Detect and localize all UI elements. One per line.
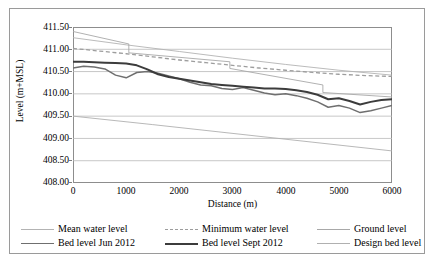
legend-line-icon	[20, 223, 56, 235]
y-tick-mark	[69, 93, 72, 94]
legend-label: Minimum water level	[200, 223, 289, 235]
y-tick-mark	[69, 116, 72, 117]
series-line-mean-water-level	[73, 38, 392, 75]
chart-legend: Mean water level Minimum water level Gro…	[20, 222, 420, 252]
legend-line-icon	[316, 237, 352, 249]
legend-label: Bed level Sept 2012	[200, 237, 283, 249]
legend-line-icon	[20, 237, 56, 249]
plot-canvas	[73, 27, 392, 183]
x-tick-label: 6000	[367, 186, 417, 197]
y-tick-mark	[69, 160, 72, 161]
legend-label: Bed level Jun 2012	[56, 237, 135, 249]
x-tick-label: 1000	[101, 186, 151, 197]
y-tick-label: 410.00	[27, 88, 69, 98]
legend-line-icon	[164, 237, 200, 249]
legend-row: Bed level Jun 2012 Bed level Sept 2012 D…	[20, 236, 420, 250]
legend-item-bed-level-jun-2012: Bed level Jun 2012	[20, 236, 164, 250]
legend-label: Mean water level	[56, 223, 127, 235]
y-axis-ticks: 411.50 411.00 410.50 410.00 409.50 409.0…	[24, 0, 69, 200]
legend-label: Ground level	[352, 223, 407, 235]
series-line-bed-level-jun-2012	[73, 66, 392, 112]
x-axis-title: Distance (m)	[73, 199, 392, 209]
y-tick-label: 408.50	[27, 155, 69, 165]
y-tick-label: 411.50	[27, 22, 69, 32]
series-line-design-bed-level	[73, 116, 392, 151]
legend-line-icon	[316, 223, 352, 235]
x-tick-label: 5000	[314, 186, 364, 197]
y-tick-mark	[69, 71, 72, 72]
y-tick-mark	[69, 27, 72, 28]
x-tick-label: 3000	[207, 186, 257, 197]
y-tick-label: 410.50	[27, 66, 69, 76]
legend-label: Design bed level	[352, 237, 421, 249]
legend-row: Mean water level Minimum water level Gro…	[20, 222, 420, 236]
series-line-bed-level-sept-2012	[73, 62, 392, 105]
gridlines	[73, 49, 392, 160]
legend-item-minimum-water-level: Minimum water level	[164, 222, 316, 236]
x-tick-label: 2000	[154, 186, 204, 197]
x-tick-label: 0	[48, 186, 98, 197]
legend-item-ground-level: Ground level	[316, 222, 420, 236]
y-tick-mark	[69, 182, 72, 183]
figure-container: Level (m+MSL) 411.50 411.00 410.50 410.0…	[0, 0, 434, 262]
y-tick-label: 409.00	[27, 133, 69, 143]
y-tick-label: 411.00	[27, 44, 69, 54]
x-tick-label: 4000	[261, 186, 311, 197]
chart-area: Level (m+MSL) 411.50 411.00 410.50 410.0…	[0, 0, 434, 200]
legend-item-bed-level-sept-2012: Bed level Sept 2012	[164, 236, 316, 250]
legend-line-icon	[164, 223, 200, 235]
legend-item-mean-water-level: Mean water level	[20, 222, 164, 236]
legend-item-design-bed-level: Design bed level	[316, 236, 420, 250]
y-tick-mark	[69, 138, 72, 139]
y-tick-label: 409.50	[27, 110, 69, 120]
y-tick-mark	[69, 49, 72, 50]
